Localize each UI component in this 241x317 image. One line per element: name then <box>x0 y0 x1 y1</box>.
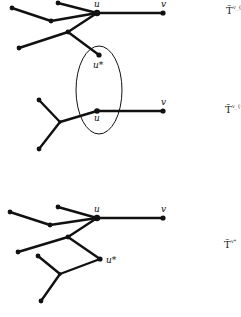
node-u-star <box>97 256 102 261</box>
panel-label-bottom: T̃ <box>224 239 231 250</box>
edge <box>39 122 60 149</box>
edge <box>10 212 50 225</box>
node <box>8 210 13 215</box>
node <box>37 147 42 152</box>
node-v <box>160 10 165 15</box>
label-v: v <box>161 97 166 107</box>
edge <box>60 111 97 122</box>
panel-label-middle-sup: v_{w*} <box>231 103 241 110</box>
label-u: u <box>94 204 100 214</box>
node <box>17 46 22 51</box>
panel-label-top: T̃ <box>226 5 233 16</box>
edge <box>41 274 60 301</box>
node <box>56 205 61 210</box>
node-u <box>94 10 100 16</box>
edge <box>19 32 68 48</box>
node <box>39 299 44 304</box>
edge <box>12 8 51 21</box>
middle-tree: u v T̃ v_{w*} <box>37 97 241 151</box>
node <box>66 30 71 35</box>
node <box>36 254 41 259</box>
edge <box>58 207 97 218</box>
panel-label-middle: T̃ <box>225 104 232 115</box>
node-u <box>94 215 100 221</box>
node-v <box>160 215 165 220</box>
node <box>66 235 71 240</box>
node <box>58 120 62 124</box>
panel-label-top-sup: v_{w} <box>232 4 241 11</box>
node <box>58 272 62 276</box>
label-u-star: u* <box>93 60 104 70</box>
panel-label-bottom-sup: v* <box>230 238 237 244</box>
node <box>56 1 61 6</box>
label-u-star: u* <box>106 255 117 265</box>
top-tree: u v u* T̃ v_{w} <box>10 0 241 70</box>
node <box>37 98 42 103</box>
label-v: v <box>161 0 166 9</box>
node <box>10 6 15 11</box>
node-v <box>160 108 165 113</box>
tree-diagram: u v u* T̃ v_{w} u v T̃ v_{w*} <box>0 0 241 317</box>
edge <box>39 100 60 122</box>
edge <box>58 3 97 13</box>
label-v: v <box>161 204 166 214</box>
node <box>48 223 53 228</box>
edge <box>68 237 100 259</box>
node <box>49 19 54 24</box>
node-u-star <box>96 52 101 57</box>
edge <box>18 237 68 252</box>
edge <box>38 256 60 274</box>
label-u: u <box>94 113 100 123</box>
edge <box>68 32 99 55</box>
edge <box>60 259 100 274</box>
label-u: u <box>94 0 100 9</box>
bottom-tree: u v u* T̃ v* <box>8 204 237 303</box>
node <box>16 250 21 255</box>
